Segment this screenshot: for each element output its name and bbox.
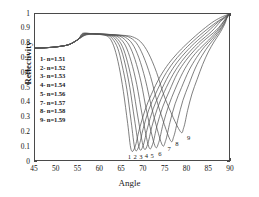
y-tick-mark-right <box>227 161 230 162</box>
y-tick-label: 0.2 <box>8 127 30 136</box>
y-tick-label: 0.7 <box>8 53 30 62</box>
curve-tag-4: 4 <box>145 152 148 159</box>
x-tick-label: 45 <box>25 164 43 173</box>
y-tick-label: 0.5 <box>8 83 30 92</box>
x-tick-label: 75 <box>156 164 174 173</box>
y-tick-label: 0.8 <box>8 38 30 47</box>
x-tick-label: 50 <box>47 164 65 173</box>
reflectivity-angle-chart: Reflectivity Angle 00.10.20.30.40.50.60.… <box>0 0 259 197</box>
x-tick-label: 80 <box>177 164 195 173</box>
legend-entry: 1- n=1.51 <box>40 55 65 64</box>
legend-entry: 7- n=1.57 <box>40 99 65 108</box>
y-tick-label: 1 <box>8 9 30 18</box>
curve-tag-6: 6 <box>158 150 161 157</box>
curve-tag-1: 1 <box>128 153 131 160</box>
legend: 1- n=1.512- n=1.523- n=1.534- n=1.545- n… <box>40 55 65 125</box>
y-tick-label: 0.3 <box>8 112 30 121</box>
x-tick-label: 85 <box>199 164 217 173</box>
x-tick-label: 60 <box>90 164 108 173</box>
y-tick-label: 0.6 <box>8 68 30 77</box>
y-tick-mark <box>34 161 37 162</box>
y-tick-label: 0.1 <box>8 142 30 151</box>
curve-tag-3: 3 <box>139 153 142 160</box>
x-tick-mark-top <box>230 13 231 16</box>
curve-tag-5: 5 <box>150 152 153 159</box>
x-tick-label: 65 <box>112 164 130 173</box>
legend-entry: 5- n=1.56 <box>40 90 65 99</box>
legend-entry: 3- n=1.53 <box>40 72 65 81</box>
x-tick-mark <box>230 158 231 161</box>
x-tick-label: 90 <box>221 164 239 173</box>
curve-tag-8: 8 <box>175 140 178 147</box>
legend-entry: 9- n=1.59 <box>40 116 65 125</box>
x-axis-label: Angle <box>0 178 259 188</box>
curve-tag-7: 7 <box>167 145 170 152</box>
legend-entry: 2- n=1.52 <box>40 64 65 73</box>
y-tick-label: 0.9 <box>8 23 30 32</box>
x-tick-label: 70 <box>134 164 152 173</box>
legend-entry: 8- n=1.58 <box>40 107 65 116</box>
y-tick-label: 0.4 <box>8 97 30 106</box>
x-tick-label: 55 <box>69 164 87 173</box>
curve-tag-9: 9 <box>187 134 190 141</box>
legend-entry: 4- n=1.54 <box>40 81 65 90</box>
curve-tag-2: 2 <box>133 153 136 160</box>
